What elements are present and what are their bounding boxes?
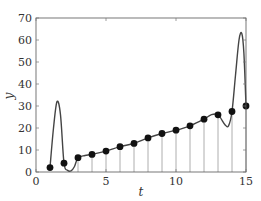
x-tick-label: 0: [33, 175, 40, 188]
data-point: [215, 111, 222, 118]
data-point: [131, 140, 138, 147]
data-point: [47, 164, 54, 171]
x-tick-label: 5: [103, 175, 110, 188]
x-tick-label: 10: [169, 175, 183, 188]
y-axis-label: y: [2, 92, 16, 100]
y-tick-label: 40: [18, 78, 32, 91]
line-chart: 051015 010203040506070 t y: [0, 0, 261, 201]
y-tick-label: 70: [18, 12, 32, 25]
data-point: [201, 116, 208, 123]
y-axis-ticks: 010203040506070: [18, 12, 246, 179]
data-point: [173, 127, 180, 134]
data-point: [75, 154, 82, 161]
data-point: [117, 143, 124, 150]
data-point: [89, 151, 96, 158]
x-axis-label: t: [139, 185, 144, 199]
y-tick-label: 10: [18, 144, 32, 157]
data-point: [61, 160, 68, 167]
data-point: [187, 122, 194, 129]
plot-frame: [36, 18, 246, 172]
data-point: [229, 108, 236, 115]
y-tick-label: 0: [25, 166, 32, 179]
data-point: [103, 148, 110, 155]
y-tick-label: 30: [18, 100, 32, 113]
data-point: [145, 135, 152, 142]
y-tick-label: 60: [18, 34, 32, 47]
x-tick-label: 15: [239, 175, 253, 188]
y-tick-label: 20: [18, 122, 32, 135]
data-point: [159, 130, 166, 137]
y-tick-label: 50: [18, 56, 32, 69]
